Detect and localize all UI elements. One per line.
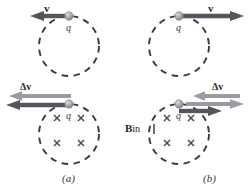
delta-v-arrow-b <box>193 91 240 101</box>
panel-label-a: (a) <box>62 173 75 184</box>
charge-dot-a-top <box>65 12 73 20</box>
delta-v-arrow-a <box>9 91 71 101</box>
charge-label-a-top: q <box>66 23 71 33</box>
resultant-arrow-a <box>6 100 69 110</box>
delta-v-label-b: Δv <box>212 82 223 92</box>
charge-dot-a-bottom <box>65 100 73 108</box>
charge-dot-b-top <box>175 12 183 20</box>
charge-dot-b-bottom <box>175 100 183 108</box>
delta-v-label-a: Δv <box>20 82 31 92</box>
field-label: Bin <box>125 123 140 134</box>
charge-label-a-bottom: q <box>66 111 71 121</box>
resultant-arrow-b <box>179 106 222 116</box>
charge-label-b-bottom: q <box>176 111 181 121</box>
velocity-label-b: v <box>208 3 214 14</box>
velocity-label-a: v <box>44 3 50 14</box>
diagram-svg <box>0 0 248 195</box>
charge-label-b-top: q <box>176 23 181 33</box>
figure-canvas: v q Δv q (a) v q Δv q (b) Bin <box>0 0 248 195</box>
field-subscript: in <box>132 123 140 134</box>
panel-label-b: (b) <box>203 173 216 184</box>
